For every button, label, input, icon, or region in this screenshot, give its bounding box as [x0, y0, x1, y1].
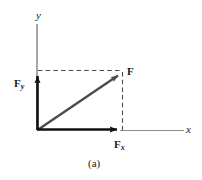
vector-decomposition-figure: y x F Fy Fx (a): [0, 0, 202, 180]
y-component-label-subscript: y: [21, 82, 25, 91]
y-component-label-text: F: [14, 77, 21, 89]
figure-caption: (a): [88, 158, 100, 169]
x-component-vector-label: Fx: [114, 139, 125, 150]
y-axis-label: y: [36, 10, 41, 21]
x-component-label-text: F: [114, 138, 121, 150]
resultant-vector-label: F: [127, 66, 134, 77]
resultant-vector-label-text: F: [127, 65, 134, 77]
y-component-vector-label: Fy: [14, 78, 24, 89]
x-axis-label: x: [186, 124, 191, 135]
figure-canvas: [0, 0, 202, 180]
x-component-label-subscript: x: [121, 143, 125, 152]
resultant-vector-arrow: [38, 76, 119, 131]
